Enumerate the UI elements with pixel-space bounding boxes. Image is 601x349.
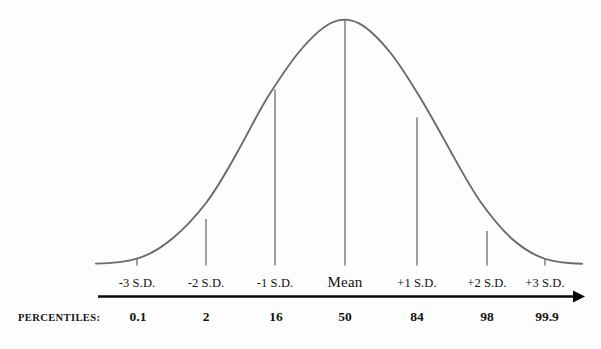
bell-curve-plot bbox=[0, 0, 601, 349]
percentile-value-minus3: 0.1 bbox=[130, 309, 147, 325]
sd-label-plus2: +2 S.D. bbox=[467, 276, 506, 291]
sd-drop-lines bbox=[137, 20, 545, 266]
percentile-value-minus2: 2 bbox=[203, 309, 210, 325]
sd-label-minus3: -3 S.D. bbox=[119, 276, 155, 291]
sd-label-plus1: +1 S.D. bbox=[397, 276, 436, 291]
sd-label-plus3: +3 S.D. bbox=[525, 276, 564, 291]
percentile-value-plus3: 99.9 bbox=[535, 309, 559, 325]
percentile-value-mean: 50 bbox=[338, 309, 352, 325]
percentile-axis bbox=[98, 291, 585, 303]
bell-curve-path bbox=[96, 20, 582, 264]
axis-arrow-head bbox=[573, 291, 585, 303]
sd-label-minus1: -1 S.D. bbox=[257, 276, 293, 291]
sd-label-minus2: -2 S.D. bbox=[188, 276, 224, 291]
percentile-value-plus2: 98 bbox=[480, 309, 494, 325]
percentiles-caption: PERCENTILES: bbox=[18, 312, 100, 323]
percentile-value-minus1: 16 bbox=[269, 309, 283, 325]
normal-distribution-figure: -3 S.D. -2 S.D. -1 S.D. Mean +1 S.D. +2 … bbox=[0, 0, 601, 349]
percentile-value-plus1: 84 bbox=[410, 309, 424, 325]
sd-label-mean: Mean bbox=[328, 274, 363, 291]
